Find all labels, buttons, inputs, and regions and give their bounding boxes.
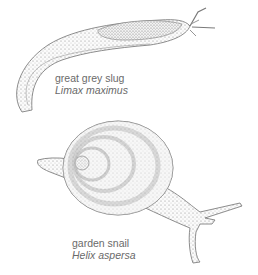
snail-latin-name: Helix aspersa bbox=[72, 249, 136, 261]
slug-caption: great grey slug Limax maximus bbox=[55, 72, 128, 96]
snail-caption: garden snail Helix aspersa bbox=[72, 237, 136, 261]
slug-common-name: great grey slug bbox=[55, 72, 128, 84]
snail-common-name: garden snail bbox=[72, 237, 136, 249]
slug-latin-name: Limax maximus bbox=[55, 84, 128, 96]
mollusc-illustration-plate: great grey slug Limax maximus garden sna… bbox=[0, 0, 258, 275]
slug-drawing bbox=[0, 0, 258, 275]
